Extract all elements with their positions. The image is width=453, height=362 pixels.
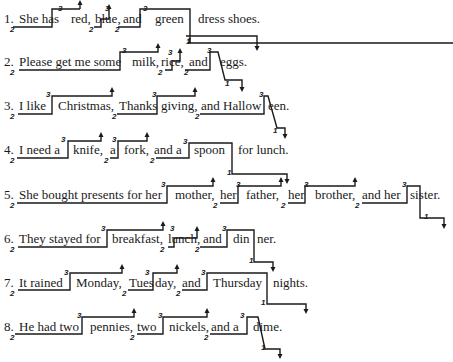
segment: It rained bbox=[19, 276, 63, 290]
segment: for lunch. bbox=[238, 143, 289, 157]
pitch-low: 2 bbox=[10, 26, 14, 34]
pitch-high: 3 bbox=[101, 225, 105, 233]
segment: I like bbox=[19, 99, 46, 113]
pitch-low: 2 bbox=[10, 290, 14, 298]
pitch-low: 2 bbox=[122, 290, 126, 298]
segment: and bbox=[189, 55, 208, 69]
segment: mother, bbox=[175, 188, 215, 202]
segment: her bbox=[220, 188, 237, 202]
pitch-high: 3 bbox=[77, 312, 81, 320]
segment: She bought presents for her bbox=[19, 188, 162, 202]
segment: Christmas, bbox=[58, 99, 114, 113]
segment: She has bbox=[19, 12, 59, 26]
pitch-low: 2 bbox=[160, 246, 164, 254]
segment: her bbox=[288, 188, 305, 202]
pitch-low: 2 bbox=[10, 69, 14, 77]
segment: sis bbox=[410, 188, 424, 202]
pitch-low: 2 bbox=[355, 202, 359, 210]
pitch-high: 3 bbox=[158, 312, 162, 320]
sentence-number: 8. bbox=[4, 320, 14, 334]
pitch-final: 1 bbox=[186, 38, 190, 46]
pitch-high: 3 bbox=[145, 269, 149, 277]
segment: fork, bbox=[124, 143, 149, 157]
pitch-high: 3 bbox=[143, 5, 147, 13]
pitch-low: 2 bbox=[10, 202, 14, 210]
pitch-low: 2 bbox=[150, 157, 154, 165]
segment: and a bbox=[154, 143, 182, 157]
segment: knife, bbox=[73, 143, 103, 157]
pitch-low: 2 bbox=[213, 202, 217, 210]
sentence-number: 1. bbox=[4, 12, 14, 26]
pitch-low: 2 bbox=[10, 246, 14, 254]
segment: and her bbox=[362, 188, 401, 202]
pitch-high: 3 bbox=[46, 91, 50, 99]
pitch-low: 2 bbox=[130, 334, 134, 342]
segment: Please get me some bbox=[19, 55, 121, 69]
segment: din bbox=[233, 232, 250, 246]
pitch-high: 3 bbox=[168, 49, 172, 57]
pitch-high: 3 bbox=[201, 269, 205, 277]
segment: and a bbox=[211, 320, 239, 334]
segment: and bbox=[182, 276, 201, 290]
pitch-low: 2 bbox=[112, 113, 116, 121]
pitch-low: 2 bbox=[281, 202, 285, 210]
sentence-number: 6. bbox=[4, 232, 14, 246]
pitch-low: 2 bbox=[158, 69, 162, 77]
segment: dime. bbox=[253, 320, 282, 334]
segment: He had two bbox=[19, 320, 79, 334]
pitch-low: 2 bbox=[104, 157, 108, 165]
pitch-final: 1 bbox=[249, 257, 253, 265]
pitch-low: 2 bbox=[195, 113, 199, 121]
pitch-low: 2 bbox=[115, 26, 119, 34]
sentence-number: 7. bbox=[4, 276, 14, 290]
segment: nickels, bbox=[169, 320, 209, 334]
pitch-final: 1 bbox=[261, 344, 265, 352]
pitch-low: 2 bbox=[10, 334, 14, 342]
pitch-low: 2 bbox=[195, 246, 199, 254]
segment: ter. bbox=[424, 188, 440, 202]
pitch-high: 3 bbox=[222, 225, 226, 233]
segment: lunch, bbox=[168, 232, 200, 246]
segment: dress shoes. bbox=[198, 12, 260, 26]
segment: I need a bbox=[19, 143, 60, 157]
segment: brother, bbox=[315, 188, 355, 202]
pitch-high: 3 bbox=[236, 181, 240, 189]
pitch-final: 1 bbox=[261, 299, 265, 307]
pitch-high: 3 bbox=[161, 181, 165, 189]
segment: een. bbox=[268, 99, 289, 113]
sentence-number: 2. bbox=[4, 55, 14, 69]
segment: eggs. bbox=[220, 55, 247, 69]
segment: spoon bbox=[194, 143, 225, 157]
segment: They stayed for bbox=[19, 232, 101, 246]
segment: pennies, bbox=[90, 320, 133, 334]
pitch-high: 3 bbox=[152, 91, 156, 99]
segment: two bbox=[137, 320, 157, 334]
segment: ner. bbox=[257, 232, 276, 246]
pitch-low: 2 bbox=[10, 113, 14, 121]
segment: nights. bbox=[273, 276, 308, 290]
pitch-high: 3 bbox=[58, 5, 62, 13]
segment: and Hallow bbox=[201, 99, 261, 113]
sentence-number: 4. bbox=[4, 143, 14, 157]
segment: Thursday bbox=[213, 276, 262, 290]
sentence-number: 3. bbox=[4, 99, 14, 113]
segment: day, bbox=[155, 276, 176, 290]
pitch-low: 2 bbox=[204, 334, 208, 342]
pitch-final: 1 bbox=[424, 213, 428, 221]
pitch-high: 3 bbox=[207, 47, 211, 55]
segment: Monday, bbox=[76, 276, 122, 290]
segment: rice, bbox=[161, 55, 184, 69]
segment: giving, bbox=[161, 99, 197, 113]
segment: and bbox=[203, 232, 222, 246]
pitch-low: 2 bbox=[184, 69, 188, 77]
pitch-high: 3 bbox=[122, 47, 126, 55]
pitch-high: 3 bbox=[259, 91, 263, 99]
pitch-high: 3 bbox=[240, 312, 244, 320]
pitch-high: 3 bbox=[112, 136, 116, 144]
segment: green bbox=[155, 12, 184, 26]
segment: father, bbox=[246, 188, 279, 202]
segment: Tues bbox=[129, 276, 154, 290]
pitch-high: 3 bbox=[170, 225, 174, 233]
pitch-low: 2 bbox=[10, 157, 14, 165]
pitch-final: 1 bbox=[227, 169, 231, 177]
